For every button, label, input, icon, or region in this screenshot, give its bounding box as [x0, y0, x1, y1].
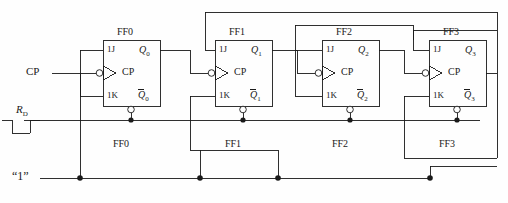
ff1-q-output-label: Q1 — [251, 45, 262, 58]
logic-one-label: “1” — [12, 170, 29, 182]
ff0-q-output-label: Q0 — [139, 45, 150, 58]
junction-dot — [347, 117, 352, 122]
ff0-reset-bubble — [128, 106, 135, 113]
ff2-clk-triangle — [322, 66, 335, 80]
ff3-title: FF3 — [443, 27, 459, 37]
junction-dot — [77, 175, 83, 181]
reset-pulse-waveform — [2, 120, 40, 133]
ff2-j-pin-label: 1J — [326, 45, 334, 54]
ff2-clk-bubble — [315, 70, 322, 77]
ff1-reset-bubble — [240, 106, 247, 113]
ff3-reset-bubble — [454, 106, 461, 113]
ff3-clk-bubble — [422, 70, 429, 77]
ff2-clk-pin-label: CP — [341, 67, 353, 77]
schematic-canvas: CP RD “1” FF0 1J 1K CP Q0 Q0 FF0 FF1 1J … — [0, 0, 508, 203]
junction-dots — [77, 117, 459, 180]
ff2-qbar-output-label: Q2 — [357, 90, 368, 103]
junction-dot — [454, 117, 459, 122]
ff0-j-pin-label: 1J — [107, 45, 115, 54]
ff0-clk-bubble — [96, 70, 103, 77]
ff3-j-pin-label: 1J — [433, 45, 441, 54]
ff0-clk-triangle — [103, 66, 116, 80]
ff3-bottom-label: FF3 — [439, 139, 455, 149]
ff0-k-pin-label: 1K — [107, 91, 118, 100]
ff2-k-pin-label: 1K — [326, 91, 337, 100]
ff1-clk-bubble — [208, 70, 215, 77]
ff1-clk-triangle — [215, 66, 228, 80]
junction-dot — [275, 175, 281, 181]
ff0-qbar-output-label: Q0 — [138, 90, 149, 103]
ff3-q-output-label: Q3 — [465, 45, 476, 58]
junction-dot — [197, 175, 203, 181]
wire-q3-outer-feedback — [205, 12, 497, 73]
ff2-reset-bubble — [347, 106, 354, 113]
ff2-title: FF2 — [336, 27, 352, 37]
ff1-title: FF1 — [229, 27, 245, 37]
reset-input-label: RD — [16, 104, 28, 118]
ff3-qbar-output-label: Q3 — [464, 90, 475, 103]
ff3-clk-triangle — [429, 66, 442, 80]
ff0-bottom-label: FF0 — [113, 139, 129, 149]
ff0-clk-pin-label: CP — [122, 67, 134, 77]
ff1-j-pin-label: 1J — [219, 45, 227, 54]
clock-input-label: CP — [26, 66, 39, 77]
ff1-clk-pin-label: CP — [234, 67, 246, 77]
ff1-k-pin-label: 1K — [219, 91, 230, 100]
ff1-bottom-label: FF1 — [225, 139, 241, 149]
wire-inner-feedback-to-ff2-j — [295, 25, 413, 50]
ff1-qbar-output-label: Q1 — [250, 90, 261, 103]
ff2-bottom-label: FF2 — [332, 139, 348, 149]
ff3-clk-pin-label: CP — [448, 67, 460, 77]
ff0-title: FF0 — [117, 27, 133, 37]
junction-dot — [427, 175, 433, 181]
junction-dot — [128, 117, 133, 122]
ff3-k-pin-label: 1K — [433, 91, 444, 100]
ff2-q-output-label: Q2 — [358, 45, 369, 58]
junction-dot — [240, 117, 245, 122]
